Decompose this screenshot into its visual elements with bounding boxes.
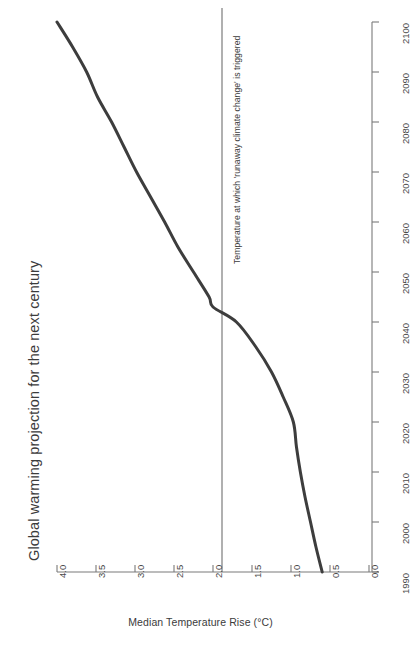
- year-tick-label: 2000: [400, 523, 411, 544]
- chart-page: Global warming projection for the next c…: [0, 0, 419, 651]
- projection-curve: [57, 22, 322, 572]
- year-tick-label: 2020: [400, 423, 411, 444]
- year-tick-label: 2050: [400, 273, 411, 294]
- temp-tick-label: 0.0: [369, 565, 380, 578]
- temp-tick-label: 2.5: [174, 565, 185, 578]
- temp-tick-label: 0.5: [330, 565, 341, 578]
- year-tick-label: 2040: [400, 323, 411, 344]
- threshold-annotation-label: Temperature at which 'runaway climate ch…: [232, 36, 242, 264]
- year-tick-label: 1990: [400, 573, 411, 594]
- temp-tick-label: 3.0: [135, 565, 146, 578]
- temp-tick-label: 1.0: [291, 565, 302, 578]
- year-tick-label: 2010: [400, 473, 411, 494]
- temperature-axis-title-text: Median Temperature Rise (°C): [128, 616, 273, 628]
- temp-tick-label: 1.5: [252, 565, 263, 578]
- plot-area: [0, 0, 419, 651]
- year-tick-label: 2070: [400, 173, 411, 194]
- temp-tick-label: 4.0: [57, 565, 68, 578]
- year-tick-label: 2060: [400, 223, 411, 244]
- year-tick-label: 2030: [400, 373, 411, 394]
- year-axis: [372, 22, 379, 572]
- year-tick-label: 2090: [400, 73, 411, 94]
- temperature-axis-title: Median Temperature Rise (°C): [0, 616, 419, 628]
- temp-tick-label: 2.0: [213, 565, 224, 578]
- year-tick-label: 2080: [400, 123, 411, 144]
- year-tick-label: 2100: [400, 23, 411, 44]
- temp-tick-label: 3.5: [96, 565, 107, 578]
